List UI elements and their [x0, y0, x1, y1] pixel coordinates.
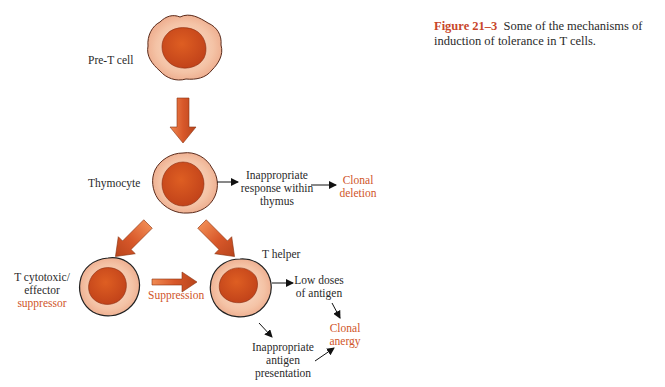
response-line3: thymus: [238, 195, 316, 208]
response-line1: Inappropriate: [238, 169, 316, 182]
suppression-label: Suppression: [148, 289, 204, 302]
clonal-deletion-label: Clonal deletion: [336, 174, 380, 200]
presentation-line2: antigen: [248, 354, 318, 367]
response-line2: response within: [238, 182, 316, 195]
inappropriate-presentation-label: Inappropriate antigen presentation: [248, 341, 318, 380]
anergy-line2: anergy: [322, 335, 368, 348]
cytotoxic-line1: T cytotoxic/: [8, 271, 76, 284]
presentation-line1: Inappropriate: [248, 341, 318, 354]
figure-caption: Figure 21–3 Some of the mechanisms of in…: [434, 19, 664, 49]
t-helper-cell: [210, 259, 271, 317]
t-cytotoxic-cell: [80, 258, 140, 316]
t-cytotoxic-label: T cytotoxic/ effector suppressor: [8, 271, 76, 310]
arrow-thymocyte-to-helper: [194, 216, 243, 265]
presentation-line3: presentation: [248, 367, 318, 380]
low-doses-label: Low doses of antigen: [290, 274, 348, 300]
pre-t-cell-label: Pre-T cell: [88, 54, 133, 67]
deletion-line1: Clonal: [336, 174, 380, 187]
thymocyte-cell: [153, 153, 218, 213]
clonal-anergy-label: Clonal anergy: [322, 322, 368, 348]
anergy-line1: Clonal: [322, 322, 368, 335]
inappropriate-response-label: Inappropriate response within thymus: [238, 169, 316, 208]
low-doses-line1: Low doses: [290, 274, 348, 287]
arrow-low-doses-to-anergy: [332, 303, 340, 318]
t-helper-label: T helper: [262, 248, 300, 261]
arrow-pret-to-thymocyte: [170, 98, 196, 143]
pre-t-cell: [148, 15, 222, 80]
cytotoxic-line3: suppressor: [8, 297, 76, 310]
cytotoxic-line2: effector: [8, 284, 76, 297]
deletion-line2: deletion: [336, 187, 380, 200]
low-doses-line2: of antigen: [290, 287, 348, 300]
thymocyte-label: Thymocyte: [88, 177, 140, 190]
figure-label: Figure 21–3: [434, 19, 497, 33]
arrow-helper-to-presentation: [259, 323, 272, 337]
